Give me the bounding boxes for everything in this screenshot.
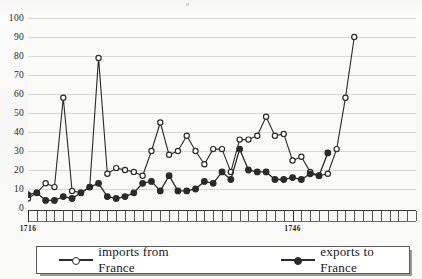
x-axis-tick [319,211,320,221]
data-point-exports [272,177,278,183]
y-axis-tick-label: 70 [14,70,24,80]
x-axis-tick [328,211,329,221]
data-point-exports [299,177,305,183]
x-axis-tick-label: 1746 [284,224,301,233]
data-point-imports [334,147,339,152]
data-point-exports [316,173,322,179]
y-axis-tick-label: 50 [14,108,24,118]
data-point-exports [246,167,252,173]
data-point-exports [52,198,58,204]
y-axis-tick-label: 90 [14,32,24,42]
data-point-exports [157,188,163,194]
x-axis-tick [416,211,417,221]
data-point-exports [69,196,75,202]
x-axis-tick [81,211,82,221]
y-axis-tick-label: 80 [14,51,24,61]
x-axis-tick [90,211,91,221]
x-axis-tick [143,211,144,221]
x-axis-tick [222,211,223,221]
data-point-imports [52,185,57,190]
data-point-imports [219,147,224,152]
data-point-imports [184,133,189,138]
x-axis-tick [248,211,249,221]
y-axis-tick-label: 0 [19,203,24,213]
x-axis-tick [310,211,311,221]
x-axis-tick [213,211,214,221]
x-axis-tick [407,211,408,221]
data-point-exports [149,179,155,185]
x-axis-tick [231,211,232,221]
data-point-exports [87,184,93,190]
data-point-exports [78,190,84,196]
data-point-imports [43,181,48,186]
data-point-exports [34,190,40,196]
data-point-exports [228,177,234,183]
x-axis-tick [275,211,276,221]
data-point-exports [281,177,287,183]
series-layer [28,18,416,208]
data-point-imports [255,133,260,138]
data-point-exports [254,169,260,175]
x-axis-tick [72,211,73,221]
data-point-imports [149,148,154,153]
x-axis-tick [390,211,391,221]
data-point-imports [175,148,180,153]
x-axis-tick [196,211,197,221]
data-point-imports [69,188,74,193]
x-axis-tick [187,211,188,221]
scan-artifact-band [0,0,422,14]
y-axis-tick-label: 100 [9,13,24,23]
data-point-exports [237,146,243,152]
open-circle-marker-icon [59,254,91,266]
x-axis-tick [169,211,170,221]
chart-page: 0102030405060708090100 17161746 imports … [0,0,422,279]
legend-label-imports: imports from France [98,244,203,276]
x-axis-tick [99,211,100,221]
data-point-exports [131,190,137,196]
y-axis-tick-label: 40 [14,127,24,137]
x-axis-tick [178,211,179,221]
x-axis-tick [284,211,285,221]
data-point-imports [352,34,357,39]
data-point-imports [263,114,268,119]
data-point-exports [113,196,119,202]
data-point-imports [96,55,101,60]
x-axis [28,210,416,222]
legend-item-exports: exports to France [281,247,409,273]
y-axis-tick-label: 10 [14,184,24,194]
data-point-exports [307,171,313,177]
data-point-exports [122,194,128,200]
data-point-imports [131,169,136,174]
data-point-imports [290,158,295,163]
data-point-imports [272,133,277,138]
data-point-imports [246,137,251,142]
x-axis-tick-label: 1716 [20,224,37,233]
data-point-imports [325,171,330,176]
data-point-exports [96,181,102,187]
data-point-imports [211,147,216,152]
data-point-exports [60,194,66,200]
data-point-exports [43,198,49,204]
x-axis-tick [116,211,117,221]
y-axis-tick-label: 30 [14,146,24,156]
chart-legend: imports from France exports to France [36,246,410,274]
x-axis-tick [54,211,55,221]
x-axis-tick [151,211,152,221]
x-axis-tick [240,211,241,221]
data-point-exports [219,169,225,175]
scan-speck [186,3,189,6]
data-point-exports [263,169,269,175]
x-axis-tick [28,211,29,222]
x-axis-tick [266,211,267,221]
filled-circle-marker-icon [281,254,313,266]
data-point-exports [184,188,190,194]
data-point-imports [61,95,66,100]
data-point-imports [343,95,348,100]
x-axis-tick [37,211,38,221]
data-point-imports [202,162,207,167]
data-point-exports [202,179,208,185]
x-axis-tick [204,211,205,221]
data-point-exports [105,194,111,200]
data-point-exports [290,175,296,181]
data-point-imports [158,120,163,125]
